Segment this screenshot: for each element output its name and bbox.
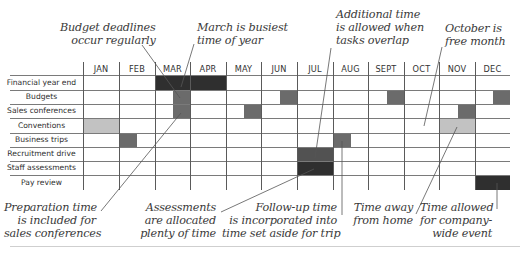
grid-vline — [119, 62, 120, 190]
row-label-pay-review: Pay review — [0, 176, 83, 190]
block-conventions-nov — [439, 119, 475, 133]
month-header-mar: MAR — [155, 63, 190, 75]
month-header-jun: JUN — [261, 63, 297, 75]
block-sales-conferences-may — [244, 104, 261, 118]
block-business-trips-aug — [333, 133, 351, 147]
row-label-staff-assessments: Staff assessments — [0, 161, 83, 175]
grid-vline — [404, 62, 405, 190]
month-header-may: MAY — [226, 63, 261, 75]
block-sales-conferences-mar — [173, 104, 190, 118]
block-pay-review-dec — [475, 176, 510, 190]
grid-vline — [333, 62, 334, 190]
note-budget-deadlines: Budget deadlines occur regularly — [60, 21, 156, 47]
grid-hline — [10, 75, 510, 76]
note-time-allowed: Time allowed for company- wide event — [420, 201, 492, 240]
grid-hline — [10, 161, 510, 162]
grid-hline — [10, 90, 510, 91]
grid-hline — [10, 104, 510, 105]
note-follow-up: Follow-up time is incorporated into time… — [222, 201, 337, 240]
note-additional-time: Additional time is allowed when tasks ov… — [336, 8, 424, 47]
month-header-oct: OCT — [404, 63, 439, 75]
month-header-feb: FEB — [119, 63, 155, 75]
grid-vline — [475, 62, 476, 190]
month-header-jul: JUL — [297, 63, 333, 75]
row-label-conventions: Conventions — [0, 119, 83, 133]
block-sales-conferences-nov — [458, 104, 475, 118]
row-label-business-trips: Business trips — [0, 133, 83, 147]
note-assessments: Assessments are allocated plenty of time — [136, 201, 216, 240]
block-business-trips-feb — [119, 133, 137, 147]
note-preparation-time: Preparation time is included for sales c… — [4, 201, 96, 240]
row-label-budgets: Budgets — [0, 90, 83, 104]
block-budgets-sept — [387, 90, 404, 104]
month-header-aug: AUG — [333, 63, 368, 75]
grid-hline — [10, 118, 510, 119]
note-time-away: Time away from home — [350, 201, 413, 227]
row-label-financial-year-end: Financial year end — [0, 76, 83, 90]
grid-hline — [10, 175, 510, 176]
grid-vline — [83, 62, 84, 190]
grid-vline — [297, 62, 298, 190]
note-october-free: October is free month — [445, 22, 506, 48]
block-budgets-dec — [493, 90, 510, 104]
grid-vline — [368, 62, 369, 190]
grid-hline — [10, 133, 510, 134]
grid-vline — [226, 62, 227, 190]
block-recruitment-drive-jul — [297, 147, 333, 161]
block-staff-assessments-jul — [297, 161, 333, 176]
grid-vline — [190, 62, 191, 190]
bottom-divider — [10, 246, 520, 247]
month-header-dec: DEC — [475, 63, 510, 75]
month-header-jan: JAN — [83, 63, 119, 75]
grid-vline — [439, 62, 440, 190]
month-header-nov: NOV — [439, 63, 475, 75]
grid-vline — [155, 62, 156, 190]
planning-calendar-diagram: Budget deadlines occur regularly March i… — [0, 0, 525, 256]
grid-vline — [261, 62, 262, 190]
month-header-sept: SEPT — [368, 63, 404, 75]
block-budgets-mar — [173, 90, 190, 104]
note-march-busiest: March is busiest time of year — [197, 21, 288, 47]
row-label-sales-conferences: Sales conferences — [0, 104, 83, 118]
block-conventions-jan — [83, 119, 119, 133]
row-label-recruitment-drive: Recruitment drive — [0, 147, 83, 161]
month-header-apr: APR — [190, 63, 226, 75]
block-budgets-jun — [280, 90, 297, 104]
grid-hline — [10, 147, 510, 148]
